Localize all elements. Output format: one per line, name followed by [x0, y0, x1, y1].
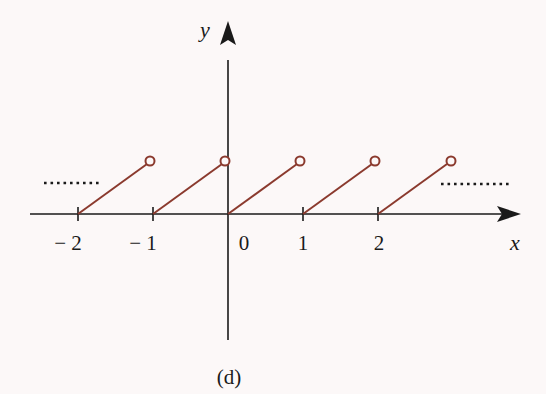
figure-caption: (d) — [217, 365, 242, 389]
tick-labels: − 2 − 1 0 1 2 — [54, 231, 384, 255]
y-axis-arrowhead-icon — [220, 21, 236, 45]
segment-5 — [378, 164, 447, 214]
tick-label-2: 2 — [374, 231, 385, 255]
tick-label-0: 0 — [239, 231, 250, 255]
open-circle-icon — [221, 157, 230, 166]
segment-3 — [228, 164, 297, 214]
segment-4 — [303, 164, 372, 214]
sawtooth-figure: − 2 − 1 0 1 2 x y (d) — [0, 0, 546, 394]
open-circle-icon — [296, 157, 305, 166]
open-circle-icon — [371, 157, 380, 166]
x-axis-label: x — [509, 230, 520, 255]
segment-2 — [153, 164, 222, 214]
y-axis-label: y — [198, 17, 210, 42]
tick-label-minus-1: − 1 — [129, 231, 157, 255]
continuation-dots — [44, 183, 512, 184]
x-axis — [30, 206, 521, 222]
sawtooth-curve — [78, 164, 447, 214]
open-endpoints — [146, 157, 456, 166]
tick-label-minus-2: − 2 — [54, 231, 82, 255]
open-circle-icon — [146, 157, 155, 166]
segment-1 — [78, 164, 147, 214]
tick-label-1: 1 — [298, 231, 309, 255]
open-circle-icon — [447, 157, 456, 166]
y-axis — [220, 21, 236, 340]
